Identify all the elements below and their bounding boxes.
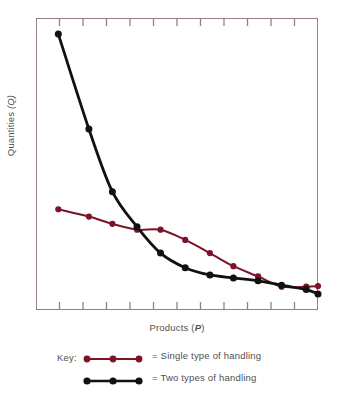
data-point [55, 31, 62, 38]
legend-label-single: = Single type of handling [152, 350, 261, 361]
plot-area [36, 18, 318, 310]
y-axis-label: Quantities (Q) [5, 66, 16, 186]
data-point [230, 263, 236, 269]
chart-figure: Quantities (Q) Products (P) Key: = Singl… [0, 0, 344, 405]
data-point [315, 290, 322, 297]
data-point [157, 227, 163, 233]
legend-swatch-single-icon [82, 353, 144, 365]
data-point [230, 274, 237, 281]
y-axis-label-text: Quantities [5, 112, 16, 156]
series-line-single [58, 209, 318, 287]
data-point [182, 237, 188, 243]
legend-key-label: Key: [57, 352, 77, 363]
chart-legend: Key: = Single type of handling = [0, 352, 344, 398]
data-point [86, 213, 92, 219]
legend-swatch-two-icon [82, 375, 144, 387]
data-point [85, 125, 92, 132]
y-axis-label-symbol: (Q) [5, 95, 16, 109]
data-point [182, 264, 189, 271]
data-point [303, 286, 310, 293]
data-point [157, 250, 164, 257]
data-point [255, 277, 262, 284]
series-two [55, 31, 322, 298]
data-point [207, 250, 213, 256]
data-point [278, 282, 285, 289]
series-line-two [58, 34, 318, 294]
x-axis-label: Products (P) [36, 322, 318, 333]
data-point [109, 188, 116, 195]
data-point [315, 283, 321, 289]
data-point [109, 221, 115, 227]
series-single [55, 206, 321, 290]
axis-ticks [60, 18, 295, 310]
data-point [55, 206, 61, 212]
x-axis-label-text: Products [149, 322, 188, 333]
legend-label-two: = Two types of handling [152, 372, 257, 383]
data-point [206, 271, 213, 278]
plot-canvas [36, 18, 318, 310]
data-point [134, 223, 141, 230]
x-axis-label-symbol: (P) [191, 322, 204, 333]
